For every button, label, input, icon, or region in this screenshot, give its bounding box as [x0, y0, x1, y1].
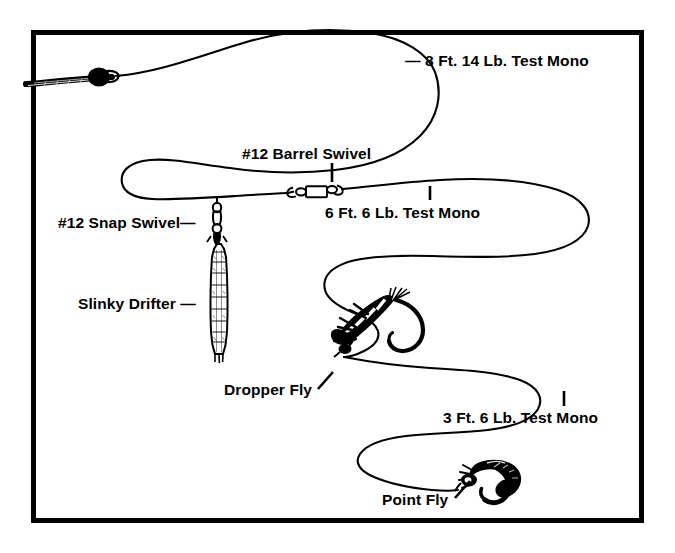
label-snap-swivel: #12 Snap Swivel— [58, 215, 196, 231]
diagram-page: — 8 Ft. 14 Lb. Test Mono #12 Barrel Swiv… [0, 0, 675, 553]
snap-swivel [207, 198, 227, 247]
label-dropper-fly: Dropper Fly [224, 382, 312, 398]
point-fly [455, 460, 521, 503]
dropper-fly-leader [318, 372, 333, 389]
dropper-fly [331, 287, 423, 357]
label-top-mono: — 8 Ft. 14 Lb. Test Mono [405, 53, 589, 69]
diagram-border [34, 33, 642, 521]
label-slinky-drifter: Slinky Drifter — [78, 296, 196, 312]
barrel-swivel [287, 186, 343, 198]
slinky-drifter-weight [211, 244, 228, 363]
label-bottom-mono: 3 Ft. 6 Lb. Test Mono [443, 410, 598, 426]
label-mid-mono: 6 Ft. 6 Lb. Test Mono [325, 205, 480, 221]
top-mono-line-tail [152, 193, 288, 199]
top-mono-line [116, 30, 439, 199]
label-point-fly: Point Fly [382, 492, 448, 508]
mid-mono-line [324, 179, 588, 316]
label-barrel-swivel: #12 Barrel Swivel [242, 146, 371, 162]
fishing-rig-illustration [0, 0, 675, 553]
